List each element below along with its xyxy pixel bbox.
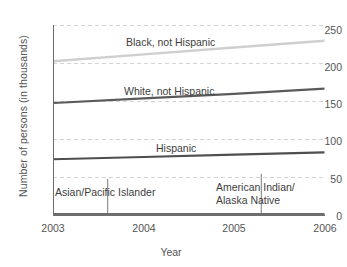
y-axis-title: Number of persons (in thousands) [17, 16, 29, 216]
series-label-american-indian-line1: American Indian/ [216, 181, 295, 193]
x-tick-label-2003: 2003 [30, 222, 76, 234]
x-tick-label-2004: 2004 [121, 222, 167, 234]
x-tick-label-2006: 2006 [302, 222, 347, 234]
series-label-white: White, not Hispanic [124, 85, 214, 97]
x-tick-label-2005: 2005 [211, 222, 257, 234]
x-axis-title: Year [0, 246, 342, 258]
series-label-black: Black, not Hispanic [126, 36, 215, 48]
series-label-asian-pacific-islander: Asian/Pacific Islander [55, 186, 155, 198]
series-label-american-indian-line2: Alaska Native [216, 194, 280, 206]
series-label-hispanic: Hispanic [156, 142, 196, 154]
